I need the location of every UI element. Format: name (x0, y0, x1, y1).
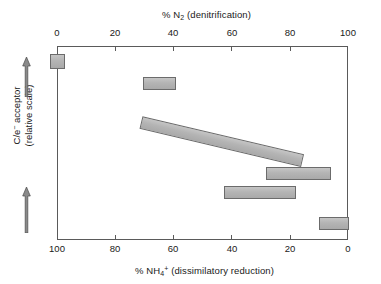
tick-label-top-60: 60 (212, 27, 252, 38)
tick-label-top-20: 20 (95, 27, 135, 38)
data-bar-4 (224, 186, 296, 199)
y-axis-title-line1: C/e− acceptor (11, 58, 23, 174)
tick-label-top-100: 100 (328, 27, 368, 38)
tick-label-bottom-20: 20 (270, 243, 310, 254)
top-axis-title-suffix: (denitrification) (184, 9, 251, 20)
tick-top-40 (173, 46, 174, 51)
top-axis-title: % N2 (denitrification) (0, 9, 381, 20)
y-axis-title-suffix: acceptor (11, 87, 22, 126)
tick-bottom-100 (57, 235, 58, 240)
bottom-axis-title-prefix: % NH (135, 265, 160, 276)
tick-top-0 (57, 46, 58, 51)
data-bar-3 (266, 167, 331, 180)
tick-bottom-40 (231, 235, 232, 240)
tick-top-80 (290, 46, 291, 51)
tick-bottom-60 (173, 235, 174, 240)
bottom-axis-title-suffix: (dissimilatory reduction) (168, 265, 274, 276)
tick-top-100 (347, 46, 348, 51)
y-axis-title-prefix: C/e (11, 130, 22, 145)
tick-label-top-40: 40 (153, 27, 193, 38)
data-bar-diagonal-wrapper (141, 100, 303, 148)
tick-bottom-0 (347, 235, 348, 240)
tick-top-60 (231, 46, 232, 51)
bottom-axis-title: % NH4+ (dissimilatory reduction) (0, 265, 381, 276)
tick-label-top-0: 0 (37, 27, 77, 38)
y-axis-title-superscript: − (11, 126, 18, 130)
data-bar-5 (319, 217, 349, 230)
figure-container: % N2 (denitrification) % NH4+ (dissimila… (0, 0, 381, 284)
tick-label-top-80: 80 (270, 27, 310, 38)
tick-label-bottom-0: 0 (328, 243, 368, 254)
tick-label-bottom-60: 60 (153, 243, 193, 254)
tick-bottom-80 (115, 235, 116, 240)
tick-top-20 (115, 46, 116, 51)
up-arrow-icon-bottom (22, 187, 31, 233)
tick-bottom-20 (290, 235, 291, 240)
top-axis-title-prefix: % N (162, 9, 180, 20)
up-arrow-icon-top (22, 57, 31, 97)
tick-label-bottom-80: 80 (95, 243, 135, 254)
tick-label-bottom-100: 100 (37, 243, 77, 254)
data-bar-1 (143, 77, 176, 90)
data-marker-square (50, 54, 65, 69)
tick-label-bottom-40: 40 (212, 243, 252, 254)
